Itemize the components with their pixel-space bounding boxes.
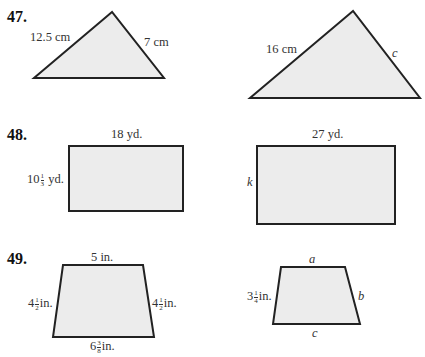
fraction: 13: [41, 173, 45, 188]
label-49a-top: 5 in.: [91, 250, 113, 265]
label-49b-left: 314in.: [247, 289, 272, 305]
label-49b-right: b: [358, 289, 364, 304]
label-49a-left: 412in.: [28, 296, 53, 312]
problem-number-49: 49.: [7, 250, 27, 268]
trapezoid-49-right: [273, 267, 360, 324]
label-49b-top: a: [309, 252, 315, 267]
rectangle-48-right: [257, 146, 395, 224]
label-49a-right: 412in.: [152, 296, 177, 312]
problem-number-47: 47.: [7, 8, 27, 26]
label-47a-right: 7 cm: [144, 35, 169, 50]
label-47b-left: 16 cm: [266, 42, 297, 57]
rectangle-48-left: [69, 146, 183, 211]
problem-number-48: 48.: [7, 126, 27, 144]
label-48a-top: 18 yd.: [111, 127, 142, 142]
label-48b-left: k: [247, 175, 253, 190]
label-49b-bottom: c: [312, 326, 318, 341]
label-47b-right: c: [392, 46, 398, 61]
label-48b-top: 27 yd.: [312, 127, 343, 142]
trapezoid-49-left: [53, 265, 154, 337]
label-49a-bottom: 638in.: [90, 339, 115, 355]
label-48a-left: 1013 yd.: [27, 172, 64, 188]
label-47a-left: 12.5 cm: [30, 30, 70, 45]
